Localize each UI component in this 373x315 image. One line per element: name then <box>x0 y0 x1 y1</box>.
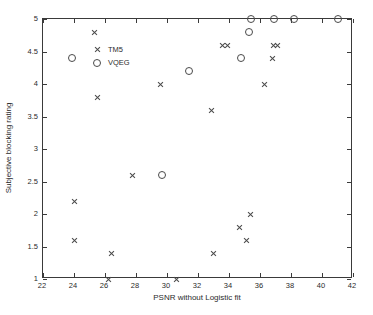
y-tick <box>43 149 47 150</box>
y-tick <box>43 247 47 248</box>
data-point-tm5 <box>157 81 164 88</box>
x-tick <box>167 273 168 277</box>
x-tick-label: 24 <box>69 281 77 290</box>
x-tick <box>105 19 106 23</box>
legend-label-vqeg: VQEG <box>108 58 130 67</box>
x-tick <box>198 273 199 277</box>
x-tick <box>291 273 292 277</box>
y-tick <box>43 117 47 118</box>
y-tick <box>347 279 351 280</box>
x-tick <box>136 273 137 277</box>
x-tick-label: 40 <box>317 281 325 290</box>
x-axis-title: PSNR without Logistic fit <box>42 293 352 302</box>
legend: TM5 VQEG <box>91 41 147 72</box>
x-tick <box>260 19 261 23</box>
x-tick <box>136 19 137 23</box>
data-point-vqeg <box>158 171 166 179</box>
y-tick <box>43 182 47 183</box>
x-tick <box>229 273 230 277</box>
legend-item-vqeg: VQEG <box>91 56 147 69</box>
x-tick-label: 30 <box>162 281 170 290</box>
x-tick-label: 42 <box>348 281 356 290</box>
x-tick <box>74 273 75 277</box>
y-tick-label: 3.5 <box>28 111 38 120</box>
data-point-tm5 <box>274 42 281 49</box>
y-tick <box>347 52 351 53</box>
x-tick <box>74 19 75 23</box>
legend-marker-circle-icon <box>93 59 101 67</box>
y-tick <box>43 279 47 280</box>
y-axis-title: Subjective blocking rating <box>4 103 13 194</box>
x-tick <box>198 19 199 23</box>
y-tick-label: 3 <box>34 144 38 153</box>
y-tick <box>347 182 351 183</box>
y-tick <box>43 19 47 20</box>
x-tick-label: 36 <box>255 281 263 290</box>
x-tick <box>260 273 261 277</box>
data-point-vqeg <box>68 54 76 62</box>
y-tick <box>347 117 351 118</box>
x-tick-label: 34 <box>224 281 232 290</box>
y-tick <box>347 149 351 150</box>
data-point-vqeg <box>237 54 245 62</box>
data-point-vqeg <box>185 67 193 75</box>
data-point-tm5 <box>108 250 115 257</box>
data-point-tm5 <box>208 107 215 114</box>
x-tick <box>353 273 354 277</box>
y-tick-label: 5 <box>34 14 38 23</box>
data-point-tm5 <box>243 237 250 244</box>
x-tick <box>322 19 323 23</box>
data-point-tm5 <box>94 94 101 101</box>
x-tick <box>322 273 323 277</box>
legend-item-tm5: TM5 <box>91 43 147 56</box>
data-point-tm5 <box>224 42 231 49</box>
x-tick <box>43 273 44 277</box>
y-tick <box>347 84 351 85</box>
data-point-tm5 <box>247 211 254 218</box>
x-tick <box>167 19 168 23</box>
x-tick-label: 28 <box>131 281 139 290</box>
y-tick <box>347 214 351 215</box>
data-point-tm5 <box>173 276 180 283</box>
data-point-tm5 <box>71 237 78 244</box>
y-tick-label: 4 <box>34 79 38 88</box>
y-tick-label: 1 <box>34 274 38 283</box>
y-tick <box>43 84 47 85</box>
y-tick <box>43 52 47 53</box>
x-tick-label: 32 <box>193 281 201 290</box>
y-tick <box>347 247 351 248</box>
data-point-tm5 <box>219 42 226 49</box>
data-point-tm5 <box>269 55 276 62</box>
data-point-tm5 <box>91 29 98 36</box>
y-tick-label: 2 <box>34 209 38 218</box>
y-tick-label: 2.5 <box>28 176 38 185</box>
data-point-tm5 <box>210 250 217 257</box>
x-tick <box>229 19 230 23</box>
data-point-vqeg <box>270 15 278 23</box>
legend-label-tm5: TM5 <box>108 45 123 54</box>
data-point-vqeg <box>247 15 255 23</box>
data-point-tm5 <box>270 42 277 49</box>
x-tick <box>353 19 354 23</box>
data-point-tm5 <box>129 172 136 179</box>
data-point-vqeg <box>245 28 253 36</box>
legend-marker-x-icon <box>94 46 101 53</box>
x-tick-label: 26 <box>100 281 108 290</box>
x-tick-label: 38 <box>286 281 294 290</box>
y-tick-label: 1.5 <box>28 241 38 250</box>
data-point-tm5 <box>236 224 243 231</box>
data-point-vqeg <box>334 15 342 23</box>
y-tick-label: 4.5 <box>28 46 38 55</box>
plot-area: TM5 VQEG <box>42 18 352 278</box>
x-tick-label: 22 <box>38 281 46 290</box>
y-tick <box>347 19 351 20</box>
data-point-tm5 <box>71 198 78 205</box>
scatter-plot-figure: TM5 VQEG 222426283032343638404211.522.53… <box>0 0 373 315</box>
y-tick <box>43 214 47 215</box>
x-tick <box>291 19 292 23</box>
x-tick <box>105 273 106 277</box>
data-point-tm5 <box>261 81 268 88</box>
